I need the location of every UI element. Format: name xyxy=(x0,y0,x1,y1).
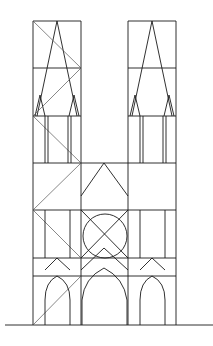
rose-window xyxy=(81,210,128,258)
cathedral-facade-drawing xyxy=(0,0,213,346)
belfry-lancets xyxy=(45,116,166,163)
right-spire xyxy=(130,21,174,116)
construction-diagonals xyxy=(33,21,81,325)
portals xyxy=(45,268,165,325)
left-spire xyxy=(35,21,79,116)
gallery-gables xyxy=(45,248,165,270)
central-gable xyxy=(81,163,128,196)
facade-frame xyxy=(33,21,176,325)
